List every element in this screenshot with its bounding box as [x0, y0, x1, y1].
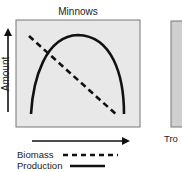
adjacent-panel-title: Tro	[164, 133, 178, 144]
chart-canvas: Amount	[0, 0, 182, 172]
y-arrowhead-icon	[4, 28, 12, 36]
legend-biomass-label: Biomass	[17, 149, 53, 160]
legend-production-label: Production	[17, 160, 62, 171]
adjacent-panel	[171, 21, 182, 127]
x-arrowhead-icon	[122, 137, 130, 145]
y-axis-label: Amount	[0, 57, 11, 92]
